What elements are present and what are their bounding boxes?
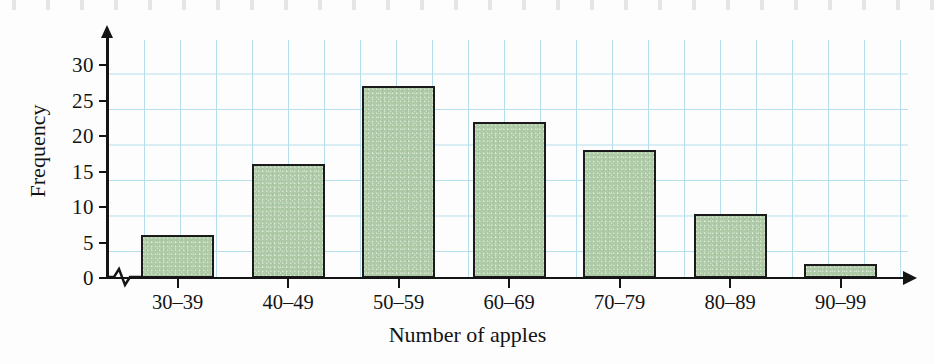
x-tick-label: 50–59 [373,292,424,313]
y-tick-mark [99,64,108,66]
x-tick-mark [287,279,289,288]
y-tick-mark [99,206,108,208]
x-tick-label: 40–49 [262,292,313,313]
y-tick-label: 15 [72,161,94,182]
bar [362,86,435,278]
x-tick-mark [619,279,621,288]
x-tick-label: 60–69 [483,292,534,313]
y-tick-mark [99,277,108,279]
x-tick-label: 30–39 [152,292,203,313]
y-axis-arrow-icon [101,25,113,38]
y-tick-label: 5 [83,232,94,253]
y-axis-title: Frequency [25,51,51,251]
x-tick-mark [729,279,731,288]
histogram-figure: 051015202530 30–3940–4950–5960–6970–7980… [0,0,935,364]
x-axis-arrow-icon [903,271,917,285]
x-tick-label: 90–99 [815,292,866,313]
bar [583,150,656,278]
axis-break-zigzag-icon [108,266,142,290]
x-tick-label: 80–89 [704,292,755,313]
y-tick-label: 20 [72,126,94,147]
x-tick-label: 70–79 [594,292,645,313]
x-tick-mark [398,279,400,288]
y-tick-mark [99,135,108,137]
y-tick-label: 30 [72,55,94,76]
y-tick-label: 10 [72,197,94,218]
y-tick-mark [99,100,108,102]
plot-area: 051015202530 30–3940–4950–5960–6970–7980… [0,0,935,364]
bar [694,214,767,278]
y-tick-mark [99,171,108,173]
x-axis-line [106,277,906,280]
y-tick-label: 25 [72,90,94,111]
x-tick-mark [508,279,510,288]
x-tick-mark [177,279,179,288]
bar [252,164,325,278]
x-axis-title: Number of apples [0,322,935,348]
x-tick-mark [840,279,842,288]
y-tick-mark [99,242,108,244]
bar [473,122,546,278]
bar [141,235,214,278]
y-tick-label: 0 [83,268,94,289]
